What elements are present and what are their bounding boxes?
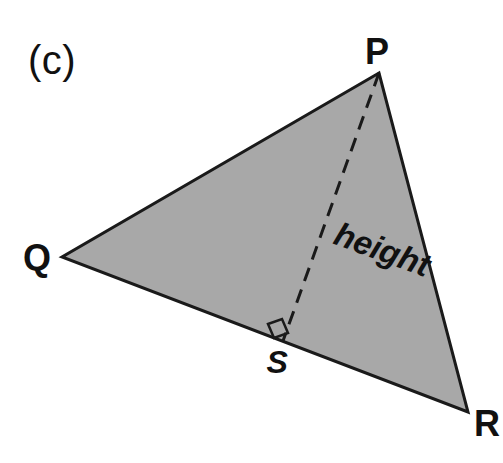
vertex-label-s: S [267,346,288,378]
vertex-label-q: Q [23,240,51,276]
vertex-label-r: R [474,406,500,442]
triangle-figure: (c) P Q R S height [0,0,503,463]
vertex-label-p: P [365,34,389,70]
part-label: (c) [28,40,76,80]
